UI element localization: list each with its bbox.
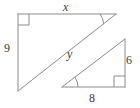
side-label-9: 9 bbox=[4, 42, 10, 54]
angle-arc-large bbox=[100, 14, 104, 24]
right-angle-marker-large bbox=[18, 14, 29, 25]
right-angle-marker-small bbox=[114, 76, 125, 87]
side-label-8: 8 bbox=[89, 92, 95, 104]
geometry-figure: x 9 y 6 8 bbox=[0, 0, 140, 108]
side-label-x: x bbox=[63, 1, 68, 13]
side-label-y: y bbox=[67, 48, 72, 60]
angle-arc-small bbox=[75, 77, 78, 87]
side-label-6: 6 bbox=[126, 54, 132, 66]
